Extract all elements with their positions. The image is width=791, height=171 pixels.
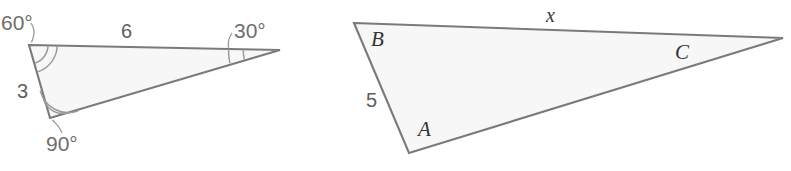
angle-label-30: 30° <box>234 20 266 41</box>
angle-label-90: 90° <box>46 133 78 154</box>
geometry-figure: 60° 6 30° 3 90° x B C 5 A <box>0 0 791 171</box>
angle-leader-30 <box>228 33 232 48</box>
side-label-x: x <box>546 5 555 25</box>
vertex-label-b: B <box>371 29 384 50</box>
vertex-label-c: C <box>675 42 689 63</box>
figure-canvas <box>0 0 791 171</box>
left-triangle-shape <box>29 45 280 118</box>
side-label-5: 5 <box>366 90 377 110</box>
vertex-label-a: A <box>418 119 431 140</box>
side-label-3: 3 <box>17 81 28 101</box>
angle-label-60: 60° <box>1 12 33 33</box>
side-label-6: 6 <box>121 21 132 41</box>
